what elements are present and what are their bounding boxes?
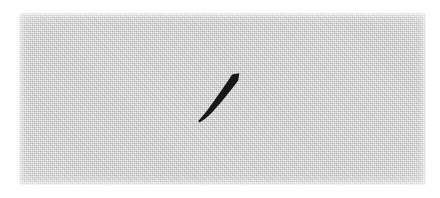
scan-canvas [0,0,440,198]
paper-texture-overlay [19,13,426,185]
paper-vignette-overlay [19,13,426,185]
paper-edge-fade [19,13,426,185]
gray-paper-patch [19,13,426,185]
